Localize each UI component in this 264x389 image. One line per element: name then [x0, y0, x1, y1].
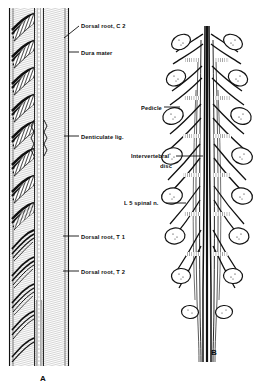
label-pedicle: Pedicle — [141, 104, 162, 112]
panel-a-artwork — [9, 8, 91, 366]
anatomy-figure: Dorsal root, C 2 Dura mater Denticulate … — [0, 0, 264, 389]
label-dorsal-root-t1: Dorsal root, T 1 — [81, 233, 125, 241]
anatomy-illustration — [0, 0, 264, 389]
label-denticulate-lig: Denticulate lig. — [81, 133, 124, 141]
panel-letter-a: A — [40, 374, 46, 383]
label-intervertebral-disc-line-1: Intervertebral — [131, 152, 169, 160]
label-dura-mater: Dura mater — [81, 49, 112, 57]
label-intervertebral-disc-line-2: disc — [160, 162, 172, 170]
label-l5-spinal-n: L 5 spinal n. — [124, 199, 159, 207]
panel-b-artwork — [160, 26, 255, 362]
panel-letter-b: B — [211, 348, 217, 357]
label-dorsal-root-c2: Dorsal root, C 2 — [81, 22, 126, 30]
label-dorsal-root-t2: Dorsal root, T 2 — [81, 268, 125, 276]
